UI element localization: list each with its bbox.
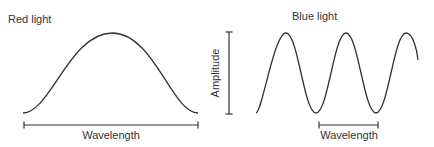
amplitude-label: Amplitude (209, 49, 221, 98)
blue-light-title: Blue light (292, 10, 337, 22)
red-light-title: Red light (8, 13, 51, 25)
wavelength-diagram: Red light Wavelength Blue light Amplitud… (0, 0, 434, 147)
amplitude-bar (226, 32, 233, 114)
blue-light-wave (256, 33, 418, 113)
red-light-wave (23, 33, 198, 113)
red-wavelength-bar (24, 122, 198, 129)
diagram-canvas: Red light Wavelength Blue light Amplitud… (0, 0, 434, 147)
blue-light-panel: Blue light Amplitude Wavelength (209, 10, 418, 141)
red-light-panel: Red light Wavelength (8, 13, 198, 141)
blue-wavelength-bar (319, 122, 378, 129)
red-wavelength-label: Wavelength (82, 129, 140, 141)
blue-wavelength-label: Wavelength (320, 129, 378, 141)
